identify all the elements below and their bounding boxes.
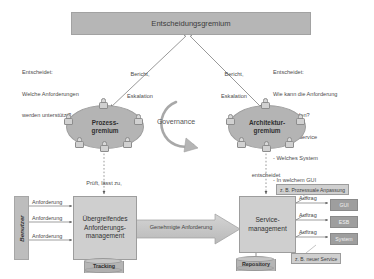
target-chip-system[interactable]: System — [330, 233, 358, 245]
edge-label-decide: entscheidet — [238, 172, 294, 179]
order-label-1: Auftrag — [299, 195, 317, 202]
person-icon — [99, 141, 108, 153]
edge-label-report-right-line2: Eskalation — [212, 93, 256, 100]
order-label-3: Auftrag — [299, 229, 317, 236]
annotation-right-line1: Entscheidet: — [273, 69, 374, 76]
annotation-left-line2: Welche Anforderungen — [22, 91, 130, 98]
decision-board[interactable]: Entscheidungsgremium — [71, 12, 311, 35]
governance-label: Governance — [148, 118, 204, 125]
person-icon — [236, 137, 245, 149]
annotation-left-line1: Entscheidet: — [22, 69, 130, 76]
person-icon — [122, 137, 131, 149]
edge-label-report-right-line1: Bericht, — [212, 71, 256, 78]
edge-label-report-left-line1: Bericht, — [118, 71, 162, 78]
service-mgmt-line1: Service- — [248, 216, 287, 225]
request-label-3: Anforderung — [32, 233, 62, 240]
callout-new-service: z. B. neuer Service — [291, 253, 341, 264]
edge-label-report-right: Bericht, Eskalation — [212, 57, 256, 114]
target-chip-gui[interactable]: GUI — [330, 199, 358, 211]
datastore-repository-label: Repository — [236, 261, 276, 267]
actor-users-lane: Benutzer — [14, 196, 29, 260]
flow-arrow-label: Genehmigte Anforderung — [138, 224, 224, 230]
person-icon — [261, 141, 270, 153]
person-icon — [260, 98, 269, 110]
process-box-service-management[interactable]: Service- management — [239, 196, 296, 253]
annotation-right-line5: - Welches System — [273, 155, 374, 162]
committee-process-line1: Prozess- — [92, 119, 119, 127]
person-icon — [98, 98, 107, 110]
committee-process-line2: gremium — [92, 127, 119, 135]
edge-label-check-line1: Prüft, lässt zu, — [56, 180, 152, 187]
target-chip-esb-label: ESB — [339, 219, 349, 225]
person-icon — [133, 114, 142, 126]
person-icon — [284, 137, 293, 149]
requirements-mgmt-line1: Übergreifendes — [82, 215, 127, 224]
target-chip-system-label: System — [335, 236, 352, 242]
request-label-1: Anforderung — [32, 199, 62, 206]
committee-architecture-line2: gremium — [254, 127, 281, 135]
requirements-mgmt-line2: Anforderungs- — [82, 224, 127, 233]
annotation-right-line2: Wie kann die Anforderung — [273, 91, 374, 98]
person-icon — [63, 114, 72, 126]
target-chip-esb[interactable]: ESB — [330, 216, 358, 228]
person-icon — [295, 114, 304, 126]
requirements-mgmt-line3: management — [82, 232, 127, 241]
person-icon — [74, 137, 83, 149]
actor-users-label: Benutzer — [18, 215, 25, 241]
callout-process-adaptation: z. B. Prozessuale Anpassung — [276, 184, 349, 195]
process-box-requirements-management[interactable]: Übergreifendes Anforderungs- management — [73, 196, 137, 260]
target-chip-gui-label: GUI — [339, 202, 348, 208]
datastore-tracking-label: Tracking — [84, 263, 124, 269]
datastore-tracking[interactable]: Tracking — [84, 258, 124, 277]
person-icon — [225, 114, 234, 126]
edge-label-report-left: Bericht, Eskalation — [118, 57, 162, 114]
decision-board-label: Entscheidungsgremium — [151, 19, 230, 28]
order-label-2: Auftrag — [299, 212, 317, 219]
request-label-2: Anforderung — [32, 215, 62, 222]
committee-architecture-line1: Architektur- — [249, 119, 285, 127]
diagram-canvas: Entscheidungsgremium Entscheidet: Welche… — [0, 0, 374, 279]
edge-label-report-left-line2: Eskalation — [118, 93, 162, 100]
service-mgmt-line2: management — [248, 225, 287, 234]
datastore-repository[interactable]: Repository — [236, 256, 276, 275]
